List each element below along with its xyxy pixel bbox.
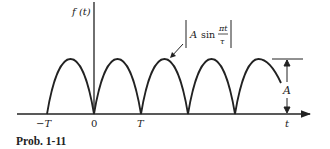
tick-label-neg-T: −T bbox=[36, 118, 52, 129]
formula-coefficient: A bbox=[189, 29, 197, 40]
y-axis-label: f (t) bbox=[71, 6, 91, 17]
tick-label-zero: 0 bbox=[91, 118, 97, 129]
formula-numerator: πt bbox=[218, 24, 228, 33]
formula-function: sin bbox=[201, 29, 215, 40]
rectified-sine-diagram: A f (t) t −T 0 T A sin πt τ Prob. 1-11 bbox=[0, 0, 330, 149]
x-axis-label: t bbox=[285, 118, 290, 129]
tick-label-T: T bbox=[137, 118, 145, 129]
formula-denominator: τ bbox=[220, 37, 225, 46]
caption: Prob. 1-11 bbox=[16, 135, 67, 147]
waveform bbox=[47, 59, 281, 114]
amplitude-label: A bbox=[282, 84, 291, 97]
formula-annotation: A sin πt τ bbox=[170, 20, 231, 58]
